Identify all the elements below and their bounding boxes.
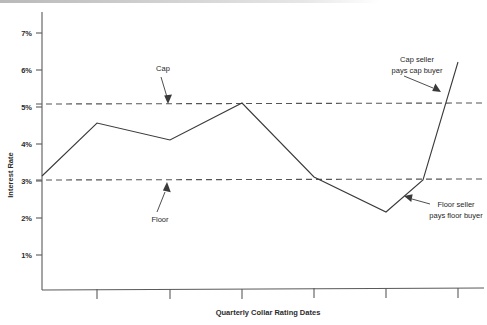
y-tick-label-4: 4% [21,140,32,149]
y-tick-label-7: 7% [21,29,32,38]
chart-canvas: 7% 6% 5% 4% 3% 2% 1% Interest Rate Quart… [0,0,487,325]
cap-seller-annotation-line1: Cap seller [400,55,434,64]
floor-annotation-label: Floor [151,215,169,224]
y-tick-label-5: 5% [21,103,32,112]
floor-arrow-icon [163,182,171,192]
y-tick-label-3: 3% [21,177,32,186]
cap-annotation-label: Cap [156,64,170,73]
y-axis-title: Interest Rate [6,152,15,197]
y-tick-label-6: 6% [21,66,32,75]
collar-interest-rate-chart: 7% 6% 5% 4% 3% 2% 1% Interest Rate Quart… [0,0,487,325]
y-tick-label-2: 2% [21,214,32,223]
floor-seller-leader-line [412,199,430,204]
interest-rate-series [42,62,458,212]
cap-reference-line [36,103,484,104]
floor-reference-line [36,179,484,180]
y-tick-label-1: 1% [21,251,32,260]
x-axis-title: Quarterly Collar Rating Dates [216,308,321,317]
cap-seller-annotation-line2: pays cap buyer [392,66,443,75]
x-axis-line [42,288,484,290]
cap-leader-line [161,77,167,97]
floor-seller-annotation-line1: Floor seller [437,200,475,209]
cap-seller-arrow-icon [432,83,441,92]
floor-seller-annotation-line2: pays floor buyer [429,211,483,220]
cap-arrow-icon [164,94,172,104]
cap-seller-leader-line [404,76,433,88]
floor-leader-line [157,192,165,212]
